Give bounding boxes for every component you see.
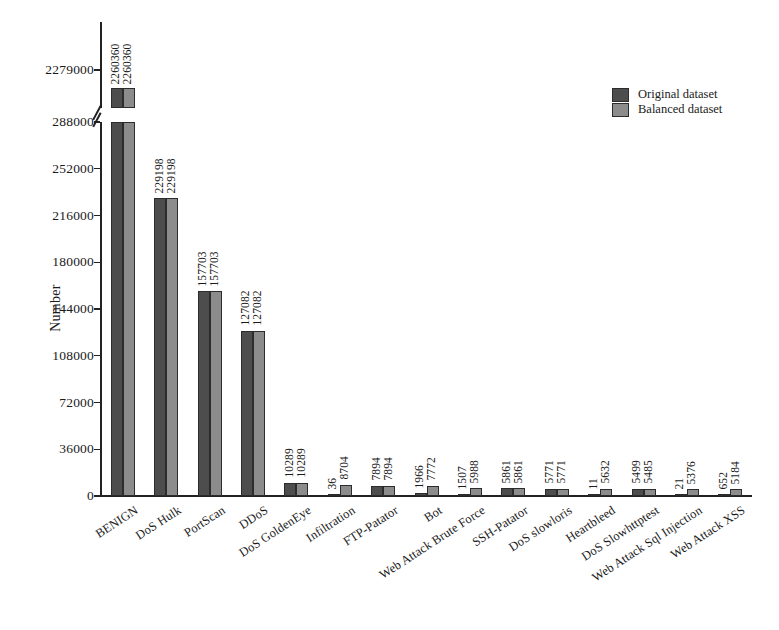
y-axis-tick	[94, 121, 100, 122]
bar-group: 54995485	[632, 122, 656, 496]
bar-value-label: 5499	[631, 460, 643, 483]
bar-value-label: 5376	[686, 461, 698, 484]
y-axis-tick-label: 216000	[32, 209, 94, 223]
y-axis-tick	[94, 168, 100, 169]
bar-value-label: 157703	[197, 251, 209, 286]
bar-bal	[296, 483, 308, 496]
bar-chart: Number 036000720001080001440001800002160…	[0, 0, 779, 630]
bar-value-label: 11	[587, 478, 599, 489]
y-axis-tick	[94, 308, 100, 309]
bar-orig	[675, 494, 687, 496]
bar-group: 6525184	[718, 122, 742, 496]
bar-bal	[470, 488, 482, 496]
bar-value-label: 5771	[556, 460, 568, 483]
bar-bal	[730, 489, 742, 496]
bar-group: 215376	[675, 122, 699, 496]
bar-bal	[557, 489, 569, 496]
bar-group: 229198229198	[154, 122, 178, 496]
bar-group: 1028910289	[284, 122, 308, 496]
bar-orig	[241, 331, 253, 496]
bar-value-label: 2260360	[110, 43, 122, 84]
bar-orig	[198, 291, 210, 496]
y-axis-tick	[94, 355, 100, 356]
bar-value-label: 5861	[500, 460, 512, 483]
bar-bal	[383, 486, 395, 496]
bar-value-label: 7772	[426, 458, 438, 481]
y-axis-tick	[94, 449, 100, 450]
bar-value-label: 2260360	[122, 43, 134, 84]
bar-orig	[458, 494, 470, 496]
y-axis-tick-label: 144000	[32, 302, 94, 316]
bar-value-label: 7894	[382, 457, 394, 480]
y-axis-tick-label: 36000	[32, 442, 94, 456]
bar-value-label: 36	[327, 477, 339, 489]
bar-orig	[588, 494, 600, 496]
bar-value-label: 5861	[512, 460, 524, 483]
bar-value-label: 10289	[283, 448, 295, 477]
bar-group: 368704	[328, 122, 352, 496]
bar-orig	[284, 483, 296, 496]
y-axis-tick	[94, 215, 100, 216]
bar-value-label: 5771	[544, 460, 556, 483]
bar-orig	[415, 493, 427, 496]
bar-orig	[154, 198, 166, 496]
bar-bal-upper	[123, 88, 135, 108]
y-axis-tick	[94, 402, 100, 403]
bar-bal	[687, 489, 699, 496]
bar-orig	[111, 122, 123, 496]
legend-label: Original dataset	[638, 87, 718, 102]
bar-group: 19667772	[415, 122, 439, 496]
bar-group	[111, 122, 135, 496]
legend-swatch	[612, 103, 629, 117]
bar-bal	[513, 488, 525, 496]
bar-value-label: 229198	[153, 158, 165, 193]
bar-group: 58615861	[501, 122, 525, 496]
bar-value-label: 8704	[339, 456, 351, 479]
bar-value-label: 127082	[252, 291, 264, 326]
x-axis-category-labels: BENIGNDoS HulkPortScanDDoSDoS GoldenEyeI…	[0, 497, 779, 630]
bar-value-label: 7894	[370, 457, 382, 480]
y-axis-tick-label: 252000	[32, 162, 94, 176]
plot-area-lower: 2291982291981577031577031270821270821028…	[101, 122, 752, 496]
bar-orig	[371, 486, 383, 496]
y-axis-tick-label: 2279000	[32, 63, 94, 77]
bar-group: 115632	[588, 122, 612, 496]
bar-group: 57715771	[545, 122, 569, 496]
bar-bal	[340, 485, 352, 496]
bar-bal	[644, 489, 656, 496]
bar-orig	[632, 489, 644, 496]
bar-bal	[427, 486, 439, 496]
bar-group: 78947894	[371, 122, 395, 496]
y-axis-tick-label: 180000	[32, 255, 94, 269]
y-axis-tick-label: 288000	[32, 115, 94, 129]
bar-orig	[718, 494, 730, 496]
bar-bal	[166, 198, 178, 496]
bar-value-label: 652	[717, 471, 729, 489]
bar-orig	[328, 494, 340, 496]
y-axis-tick-label: 72000	[32, 396, 94, 410]
bar-group: 15075988	[458, 122, 482, 496]
bar-bal	[600, 489, 612, 496]
chart-legend: Original datasetBalanced dataset	[612, 88, 762, 122]
y-axis-tick-label: 108000	[32, 349, 94, 363]
legend-label: Balanced dataset	[638, 102, 722, 117]
bar-orig-upper	[111, 88, 123, 108]
bar-value-label: 229198	[165, 158, 177, 193]
bar-value-label: 1966	[414, 465, 426, 488]
bar-group: 127082127082	[241, 122, 265, 496]
bar-bal	[253, 331, 265, 496]
bar-bal	[123, 122, 135, 496]
legend-swatch	[612, 88, 629, 102]
bar-group: 157703157703	[198, 122, 222, 496]
bar-value-label: 157703	[209, 251, 221, 286]
bar-value-label: 10289	[295, 448, 307, 477]
y-axis-tick	[94, 262, 100, 263]
bar-orig	[545, 489, 557, 496]
bar-value-label: 5988	[469, 460, 481, 483]
y-axis-tick	[94, 69, 100, 70]
bar-value-label: 5632	[599, 460, 611, 483]
bar-value-label: 5485	[643, 460, 655, 483]
bar-orig	[501, 488, 513, 496]
bar-value-label: 5184	[729, 461, 741, 484]
bar-bal	[210, 291, 222, 496]
